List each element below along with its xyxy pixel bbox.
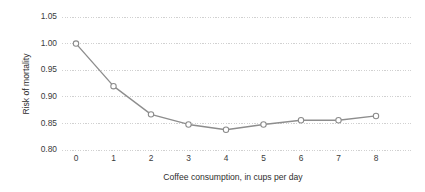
data-point-marker: [111, 83, 116, 88]
y-axis-tick-label: 0.85: [41, 118, 58, 128]
x-axis-tick-label: 2: [149, 153, 154, 163]
data-point-marker: [73, 41, 78, 46]
series-line-risk-of-mortality: [76, 44, 376, 130]
y-axis-tick-label: 1.05: [41, 11, 58, 21]
x-axis-tick-label: 0: [74, 153, 79, 163]
x-axis-title: Coffee consumption, in cups per day: [163, 172, 303, 182]
x-axis-tick-label: 4: [224, 153, 229, 163]
data-point-markers: [73, 41, 378, 133]
data-point-marker: [336, 118, 341, 123]
x-axis-tick-label: 7: [336, 153, 341, 163]
line-chart: 1.051.000.950.900.850.80 012345678 Coffe…: [0, 0, 425, 192]
chart-container: 1.051.000.950.900.850.80 012345678 Coffe…: [0, 0, 425, 192]
x-axis-tick-label: 3: [186, 153, 191, 163]
y-axis-tick-label: 0.90: [41, 91, 58, 101]
x-axis-tick-label: 1: [111, 153, 116, 163]
x-axis-tick-label: 6: [299, 153, 304, 163]
y-axis-tick-label: 1.00: [41, 38, 58, 48]
data-point-marker: [186, 122, 191, 127]
y-axis-tick-label: 0.80: [41, 144, 58, 154]
y-axis-tick-labels: 1.051.000.950.900.850.80: [41, 11, 58, 154]
data-point-marker: [148, 112, 153, 117]
data-point-marker: [373, 113, 378, 118]
y-axis-title: Risk of mortality: [21, 53, 31, 115]
x-axis-tick-labels: 012345678: [74, 153, 379, 163]
data-point-marker: [223, 127, 228, 132]
y-axis-tick-label: 0.95: [41, 64, 58, 74]
data-point-marker: [298, 118, 303, 123]
x-axis-tick-label: 5: [261, 153, 266, 163]
data-point-marker: [261, 122, 266, 127]
x-axis-tick-label: 8: [374, 153, 379, 163]
